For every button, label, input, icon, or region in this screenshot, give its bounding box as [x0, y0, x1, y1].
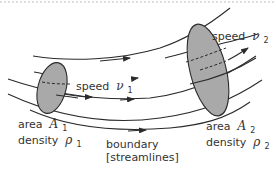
speed2-label: speed ν 2 [212, 26, 269, 45]
streamtube-diagram: speed ν 1 speed ν 2 area A 1 density ρ 1… [0, 0, 276, 173]
density2-label: density ρ 2 [206, 132, 270, 151]
streamlines-label: [streamlines] [106, 151, 179, 164]
speed1-label: speed ν 1 [76, 76, 133, 95]
density1-label: density ρ 1 [18, 130, 82, 149]
speed1-arrow [132, 78, 138, 79]
boundary-label: boundary [106, 138, 159, 151]
speed2-arrow [228, 48, 248, 60]
cross-section-1 [32, 59, 73, 116]
streamline-bottom-arrow [128, 130, 146, 131]
